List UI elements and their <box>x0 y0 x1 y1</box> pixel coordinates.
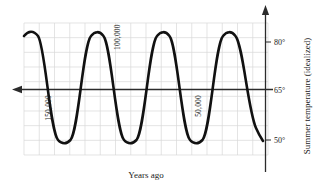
inline-label-100000: 100,000 <box>113 24 122 50</box>
chart-figure: 80° 65° 50° 150,000 100,000 50,000 Years… <box>0 0 322 190</box>
y-tick-label-65: 65° <box>274 86 285 95</box>
y-axis-arrow-icon <box>262 5 269 15</box>
y-tick-label-80: 80° <box>274 38 285 47</box>
chart-canvas: 80° 65° 50° 150,000 100,000 50,000 Years… <box>0 0 322 190</box>
y-axis-title: Summer temperature (idealized) <box>302 38 312 154</box>
x-axis <box>12 86 273 93</box>
temperature-curve <box>24 32 263 144</box>
y-tick-label-50: 50° <box>274 136 285 145</box>
inline-label-50000: 50,000 <box>194 95 203 117</box>
inline-label-150000: 150,000 <box>44 95 53 121</box>
x-axis-title: Years ago <box>128 170 164 180</box>
x-axis-arrow-icon <box>12 86 22 93</box>
